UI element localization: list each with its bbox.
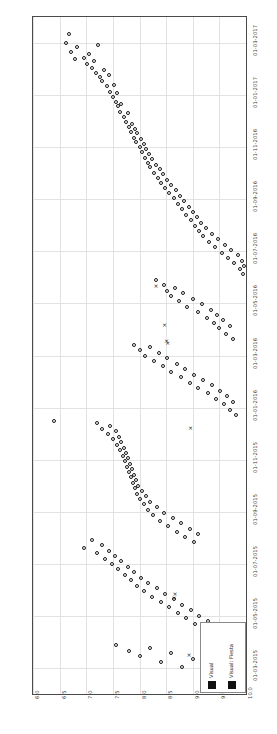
data-point: [148, 165, 152, 169]
value-axis-tick-label: 8.0: [141, 690, 147, 699]
data-point: [184, 616, 188, 620]
data-point: [221, 318, 225, 322]
data-point: [169, 294, 173, 298]
data-point: [161, 172, 165, 176]
data-point: [134, 140, 138, 144]
legend-label: Visual: Fiesta: [228, 644, 234, 678]
legend-entry-visual[interactable]: Visual: [203, 623, 223, 689]
data-point: [163, 592, 167, 596]
data-point: [205, 316, 209, 320]
data-point: [154, 278, 158, 282]
data-point: [228, 324, 232, 328]
data-point: [218, 389, 222, 393]
data-point: [119, 440, 123, 444]
data-point: [225, 394, 229, 398]
data-point: [113, 554, 117, 558]
data-point: [189, 608, 193, 612]
data-point: [130, 122, 134, 126]
data-point: [152, 359, 156, 363]
data-point: [241, 272, 245, 276]
data-point: [90, 66, 94, 70]
data-point: [210, 383, 214, 387]
data-point: [151, 513, 155, 517]
date-axis-tick-label: 01-01-2016: [252, 389, 258, 420]
data-point: [176, 611, 180, 615]
data-point: [188, 426, 192, 430]
data-point: [139, 576, 143, 580]
data-point: [67, 32, 71, 36]
data-point: [136, 484, 140, 488]
data-point: [217, 326, 221, 330]
data-point: [191, 210, 195, 214]
data-point: [169, 370, 173, 374]
data-point: [95, 551, 99, 555]
data-point: [166, 524, 170, 528]
data-point: [169, 183, 173, 187]
data-point: [163, 186, 167, 190]
data-point: [100, 543, 104, 547]
data-point: [132, 136, 136, 140]
data-point: [206, 391, 210, 395]
data-point: [188, 381, 192, 385]
data-point: [140, 489, 144, 493]
data-point: [132, 473, 136, 477]
data-point: [179, 375, 183, 379]
data-point: [115, 91, 119, 95]
data-point: [155, 586, 159, 590]
data-point: [64, 41, 68, 45]
gridline-vertical: [140, 17, 141, 694]
data-point: [73, 57, 77, 61]
data-point: [75, 45, 79, 49]
data-point: [129, 130, 133, 134]
data-point: [175, 362, 179, 366]
data-point: [146, 161, 150, 165]
data-point: [111, 95, 115, 99]
data-point: [200, 302, 204, 306]
date-axis-tick-label: 01-03-2016: [252, 337, 258, 368]
data-point: [128, 462, 132, 466]
legend-entry-visual-fiesta[interactable]: Visual: Fiesta: [223, 623, 243, 689]
data-point: [196, 532, 200, 536]
date-axis-tick-label: 01-09-2016: [252, 181, 258, 212]
data-point: [228, 408, 232, 412]
date-axis-tick-label: 01-11-2015: [252, 442, 258, 473]
data-point: [193, 622, 197, 626]
date-axis-tick-label: 01-11-2016: [252, 129, 258, 160]
data-point: [195, 215, 199, 219]
data-point: [143, 354, 147, 358]
data-point: [107, 549, 111, 553]
data-point: [231, 400, 235, 404]
data-point: [180, 603, 184, 607]
chart-legend[interactable]: Visual Visual: Fiesta: [200, 622, 246, 693]
data-point: [143, 156, 147, 160]
data-point: [148, 345, 152, 349]
legend-label: Visual: [208, 663, 214, 679]
data-point: [175, 530, 179, 534]
data-point: [158, 519, 162, 523]
data-point: [232, 261, 236, 265]
data-point: [196, 386, 200, 390]
data-point: [140, 150, 144, 154]
data-point: [106, 432, 110, 436]
date-axis-tick-label: 01-01-2017: [252, 77, 258, 108]
data-point: [96, 43, 100, 47]
data-point: [114, 429, 118, 433]
gridline-vertical: [33, 17, 34, 694]
data-point: [238, 267, 242, 271]
data-point: [146, 508, 150, 512]
data-point: [148, 500, 152, 504]
data-point: [105, 84, 109, 88]
data-point: [234, 413, 238, 417]
data-point: [150, 595, 154, 599]
data-point: [183, 535, 187, 539]
data-point: [116, 567, 120, 571]
data-point: [114, 100, 118, 104]
data-point: [102, 68, 106, 72]
date-axis-tick-label: 01-03-2017: [252, 25, 258, 56]
value-axis-tick-label: 7.5: [114, 690, 120, 699]
data-point: [152, 171, 156, 175]
gridline-vertical: [86, 17, 87, 694]
data-point: [130, 467, 134, 471]
data-point: [119, 102, 123, 106]
data-point: [165, 289, 169, 293]
